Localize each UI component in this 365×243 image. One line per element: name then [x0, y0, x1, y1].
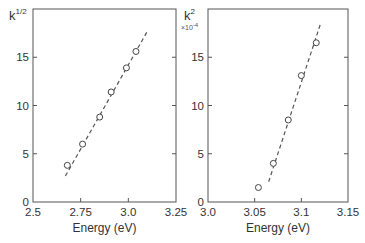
y-tick-label: 10 [16, 100, 29, 112]
plot-frame [208, 9, 348, 202]
y-axis-title: k1/2 [9, 7, 27, 23]
data-point [64, 162, 70, 168]
x-tick-label: 3.25 [165, 206, 187, 218]
y-tick-label: 5 [198, 148, 204, 160]
right-panel: 3.03.053.13.15051015Energy (eV)k2×10-4 [181, 7, 359, 235]
y-axis-multiplier: ×10-4 [181, 22, 199, 31]
x-tick-label: 3.05 [243, 206, 265, 218]
plot-frame [33, 9, 176, 202]
data-point [80, 141, 86, 147]
data-point [255, 185, 261, 191]
x-axis-title: Energy (eV) [72, 221, 136, 235]
data-point [123, 65, 129, 71]
chart-canvas: 2.52.753.03.25051015Energy (eV)k1/2 3.03… [0, 0, 365, 243]
y-tick-label: 0 [23, 196, 29, 208]
data-point [313, 40, 319, 46]
data-point [133, 48, 139, 54]
x-tick-label: 3.15 [337, 206, 359, 218]
left-panel: 2.52.753.03.25051015Energy (eV)k1/2 [9, 7, 187, 235]
y-tick-label: 10 [191, 100, 204, 112]
data-point [97, 114, 103, 120]
y-axis-title: k2 [184, 7, 196, 23]
x-tick-label: 3.0 [120, 206, 136, 218]
data-point [298, 73, 304, 79]
y-tick-label: 5 [23, 148, 29, 160]
data-point [285, 117, 291, 123]
y-tick-label: 0 [198, 196, 204, 208]
x-tick-label: 3.1 [293, 206, 309, 218]
y-tick-label: 15 [191, 51, 204, 63]
fit-line [269, 23, 321, 182]
data-point [270, 160, 276, 166]
x-axis-title: Energy (eV) [246, 221, 310, 235]
y-tick-label: 15 [16, 51, 29, 63]
x-tick-label: 2.75 [69, 206, 91, 218]
data-point [108, 89, 114, 95]
